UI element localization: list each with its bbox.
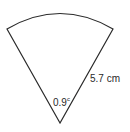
- sector-diagram: 0.9c 5.7 cm: [0, 0, 130, 132]
- radian-symbol: c: [67, 96, 70, 102]
- radius-label: 5.7 cm: [90, 74, 120, 84]
- angle-value: 0.9: [53, 97, 67, 108]
- sector-shape: [0, 0, 130, 132]
- angle-label: 0.9c: [53, 98, 70, 108]
